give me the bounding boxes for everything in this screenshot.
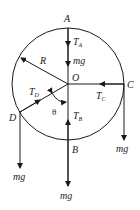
point-c-label: C [127, 79, 134, 90]
gravity-b-label: mg [60, 190, 72, 201]
gravity-a-label: mg [73, 55, 85, 66]
point-a-label: A [63, 13, 71, 24]
tension-a-label: TA [73, 36, 83, 48]
radius-label: R [39, 55, 46, 66]
angle-theta-arc [52, 93, 66, 102]
free-body-diagram: A TA mg R O C TC TD D θ TB B mg mg mg [0, 0, 140, 210]
tension-b-label: TB [73, 110, 83, 122]
center-o-label: O [72, 72, 79, 83]
tension-d-label: TD [29, 86, 40, 98]
point-b-label: B [72, 144, 78, 155]
point-d-label: D [8, 112, 17, 123]
gravity-d-label: mg [13, 171, 25, 182]
tension-c-label: TC [96, 90, 107, 102]
gravity-c-label: mg [116, 143, 128, 154]
diagram-canvas: A TA mg R O C TC TD D θ TB B mg mg mg [0, 0, 140, 210]
tension-d-arrow [20, 100, 40, 112]
angle-theta-label: θ [52, 107, 56, 117]
